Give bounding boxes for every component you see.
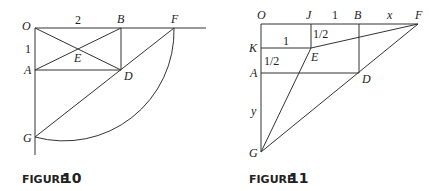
figure-10: O B F A D E G 2 1 FIGURE 10 [22, 12, 206, 186]
measure-OB: 2 [75, 13, 81, 27]
label-O: O [22, 19, 31, 33]
measure-OA: 1 [25, 42, 31, 56]
measure-BF: x [386, 8, 393, 22]
figures-canvas: O B F A D E G 2 1 FIGURE 10 O J B F K E … [0, 0, 443, 191]
label-E: E [310, 50, 319, 64]
label-G: G [23, 131, 32, 145]
figure-11: O J B F K E A D G 1 x 1 1/2 1/2 y FIGURE… [248, 8, 423, 186]
label-J: J [306, 8, 312, 22]
label-B: B [354, 8, 362, 22]
label-A: A [23, 63, 32, 77]
label-D: D [361, 72, 371, 86]
measure-AG: y [250, 104, 257, 118]
label-F: F [170, 12, 179, 26]
measure-JB: 1 [332, 8, 338, 22]
measure-JE: 1/2 [313, 27, 328, 41]
caption-word: FIGURE [249, 173, 295, 186]
measure-KE: 1 [283, 34, 289, 48]
label-D: D [123, 69, 133, 83]
caption-word: FIGURE [22, 173, 68, 186]
label-F: F [414, 8, 423, 22]
caption-number: 11 [289, 170, 308, 186]
label-E: E [73, 51, 82, 65]
label-B: B [117, 12, 125, 26]
label-G: G [249, 146, 258, 160]
measure-KA: 1/2 [264, 54, 279, 68]
label-O: O [257, 8, 266, 22]
label-K: K [248, 41, 258, 55]
segment-FG [35, 28, 174, 137]
caption-number: 10 [62, 170, 82, 186]
label-A: A [249, 66, 258, 80]
